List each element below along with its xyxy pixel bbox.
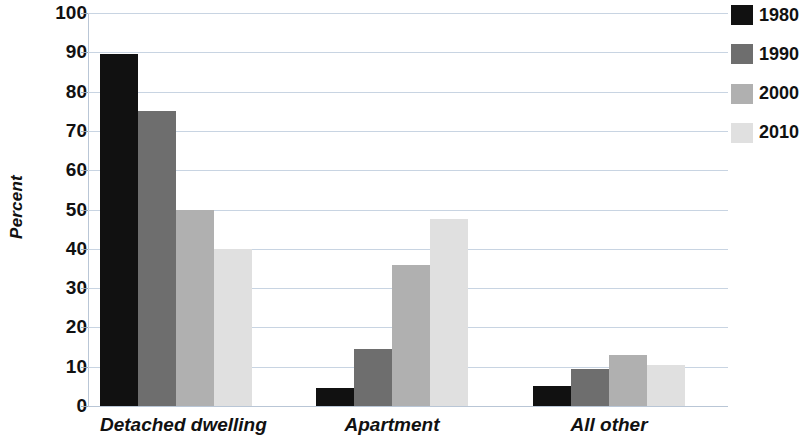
bar: [214, 249, 252, 406]
bar-group: [316, 13, 468, 406]
bar: [392, 265, 430, 406]
y-axis-tick-label: 60: [17, 159, 87, 181]
y-axis-tick-label: 70: [17, 120, 87, 142]
y-axis-tick-mark: [81, 288, 88, 289]
y-axis-tick-mark: [81, 249, 88, 250]
y-axis-tick-mark: [81, 92, 88, 93]
bar: [609, 355, 647, 406]
legend-label: 2000: [759, 83, 799, 104]
x-axis-category-label: Detached dwelling: [100, 414, 252, 436]
bar: [138, 111, 176, 406]
legend-item[interactable]: 2000: [731, 83, 799, 105]
y-axis-tick-label: 50: [17, 199, 87, 221]
y-axis-tick-label: 80: [17, 81, 87, 103]
y-axis-tick-label: 90: [17, 41, 87, 63]
y-axis-tick-label: 0: [17, 395, 87, 417]
y-axis-tick-mark: [81, 131, 88, 132]
y-axis-tick-mark: [81, 52, 88, 53]
y-axis-tick-mark: [81, 367, 88, 368]
legend-swatch: [731, 44, 753, 64]
legend-swatch: [731, 123, 753, 143]
y-axis-tick-mark: [81, 406, 88, 407]
y-axis-tick-label: 40: [17, 238, 87, 260]
bar: [571, 369, 609, 406]
legend-swatch: [731, 84, 753, 104]
y-axis-tick-label: 100: [17, 2, 87, 24]
bar: [647, 365, 685, 406]
y-axis-tick-mark: [81, 210, 88, 211]
y-axis-tick-label: 30: [17, 277, 87, 299]
y-axis-tick-mark: [81, 170, 88, 171]
legend-item[interactable]: 1990: [731, 43, 799, 65]
legend-label: 2010: [759, 122, 799, 143]
legend-label: 1980: [759, 5, 799, 26]
y-axis-tick-label: 10: [17, 356, 87, 378]
legend-swatch: [731, 5, 753, 25]
y-axis-tick-label: 20: [17, 316, 87, 338]
y-axis-tick-mark: [81, 327, 88, 328]
x-axis-category-label: All other: [533, 414, 685, 436]
bar: [354, 349, 392, 406]
y-axis-tick-mark: [81, 13, 88, 14]
bar-chart: Percent 0102030405060708090100 Detached …: [0, 0, 799, 446]
bar: [100, 54, 138, 406]
bar: [176, 210, 214, 407]
bar-group: [100, 13, 252, 406]
gridline: [88, 406, 728, 407]
legend-label: 1990: [759, 44, 799, 65]
plot-area: [88, 13, 728, 406]
x-axis-category-label: Apartment: [316, 414, 468, 436]
bar: [533, 386, 571, 406]
bar-group: [533, 13, 685, 406]
bar: [316, 388, 354, 406]
bar: [430, 219, 468, 406]
legend-item[interactable]: 2010: [731, 122, 799, 144]
legend-item[interactable]: 1980: [731, 4, 799, 26]
